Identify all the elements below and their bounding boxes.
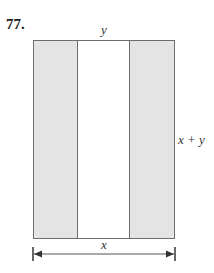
outer-rectangle xyxy=(33,40,175,239)
left-shaded-strip xyxy=(34,41,78,238)
right-shaded-strip xyxy=(129,41,174,238)
problem-number: 77. xyxy=(6,16,25,33)
double-arrow-icon xyxy=(30,245,180,263)
height-label: x + y xyxy=(178,132,205,148)
top-width-label: y xyxy=(101,22,107,38)
